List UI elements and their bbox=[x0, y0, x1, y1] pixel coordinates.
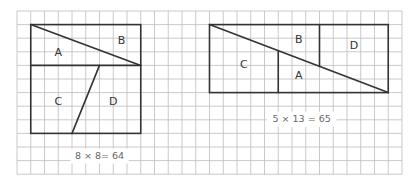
piece-label-a: A bbox=[54, 46, 62, 59]
area-formula: 5 × 13 = 65 bbox=[273, 113, 331, 124]
curry-paradox-diagram: ABCD8 × 8= 64BDCA5 × 13 = 65 bbox=[0, 0, 420, 185]
piece-label-b: B bbox=[118, 34, 126, 47]
piece-label-a: A bbox=[295, 69, 303, 82]
piece-label-c: C bbox=[240, 58, 248, 71]
area-formula: 8 × 8= 64 bbox=[75, 150, 124, 161]
piece-label-b: B bbox=[295, 33, 303, 46]
piece-label-d: D bbox=[350, 39, 358, 52]
piece-label-d: D bbox=[109, 95, 117, 108]
piece-label-c: C bbox=[54, 95, 62, 108]
